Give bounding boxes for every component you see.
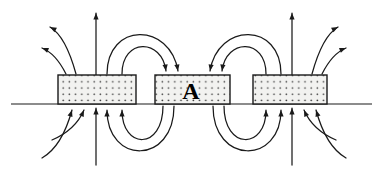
- top-loop-outer-right-middle: [210, 35, 281, 74]
- bottom-inward-arc-left-outer: [42, 110, 72, 158]
- top-outward-arc-right-outer: [312, 27, 338, 74]
- top-loop-outer-left-middle: [107, 35, 178, 74]
- top-loop-inner-right-middle-arrowhead: [220, 64, 225, 71]
- magnetic-field-diagram: A: [0, 0, 380, 178]
- top-outward-arc-right-inner-arrowhead: [339, 48, 346, 53]
- bottom-inward-arc-left-inner-arrowhead: [79, 110, 84, 117]
- bottom-inward-arc-right-outer: [316, 110, 346, 158]
- top-loop-outer-left-middle-arrowhead: [174, 64, 179, 71]
- bottom-vertical-arrow-right-arrowhead: [289, 108, 294, 115]
- bottom-inward-arc-left-outer-arrowhead: [68, 110, 73, 117]
- bottom-inward-arc-right-inner: [304, 110, 336, 140]
- right-block-body: [253, 75, 327, 104]
- top-outward-arc-left-inner-arrowhead: [42, 48, 49, 53]
- top-loop-inner-left-middle: [122, 47, 166, 74]
- top-loop-outer-right-middle-arrowhead: [209, 64, 214, 71]
- right-block: [253, 75, 327, 104]
- bottom-loop-outer-left-arrowhead: [104, 110, 109, 117]
- bottom-loop-inner-left: [122, 106, 163, 140]
- bottom-inward-arc-right-inner-arrowhead: [304, 110, 309, 117]
- bottom-inward-arc-right-outer-arrowhead: [316, 110, 321, 117]
- top-outward-arc-left-outer: [50, 27, 76, 74]
- left-block-body: [58, 75, 136, 104]
- block-label-a: A: [182, 78, 200, 104]
- bottom-loop-inner-right: [224, 106, 266, 140]
- top-outward-arc-right-inner: [322, 48, 346, 74]
- left-block: [58, 75, 136, 104]
- bottom-loop-outer-right-arrowhead: [278, 110, 283, 117]
- top-loop-inner-left-middle-arrowhead: [163, 64, 168, 71]
- top-loop-inner-right-middle: [222, 47, 266, 74]
- bottom-loop-inner-right-arrowhead: [263, 110, 268, 117]
- figure-root: A: [0, 0, 380, 178]
- top-outward-arc-left-inner: [42, 48, 66, 74]
- bottom-loop-outer-right: [213, 106, 281, 151]
- bottom-loop-inner-left-arrowhead: [119, 110, 124, 117]
- top-vertical-arrow-left-arrowhead: [93, 13, 98, 20]
- top-vertical-arrow-right-arrowhead: [289, 13, 294, 20]
- bottom-vertical-arrow-left-arrowhead: [93, 108, 98, 115]
- bottom-inward-arc-left-inner: [52, 110, 84, 140]
- bottom-loop-outer-left: [107, 106, 174, 151]
